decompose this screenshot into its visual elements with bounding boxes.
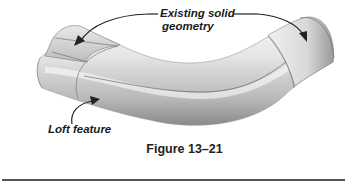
section-divider (2, 179, 345, 181)
callout-existing-solid-geometry: Existing solid geometry (160, 7, 235, 33)
callout-loft-feature: Loft feature (48, 123, 111, 136)
callout-top-line2: geometry (160, 20, 235, 33)
callout-top-line1: Existing solid (160, 7, 235, 19)
figure-13-21: Existing solid geometry Loft feature Fig… (0, 0, 347, 183)
callout-left-leader (72, 101, 92, 124)
figure-caption: Figure 13–21 (0, 142, 347, 156)
